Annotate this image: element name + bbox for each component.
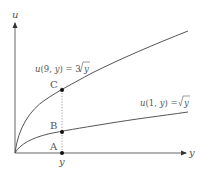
point-b-label: B	[50, 120, 57, 131]
svg-text:y: y	[183, 98, 189, 108]
svg-text:y: y	[83, 64, 89, 74]
point-a-label: A	[49, 141, 58, 152]
curve-u1	[15, 112, 188, 153]
point-b	[60, 130, 64, 134]
svg-text:u(9, y) = 3: u(9, y) = 3	[35, 64, 81, 74]
utility-curves-diagram: u y A B C y u(9, y) = 3 y u(1, y) = y	[0, 0, 204, 177]
y-axis-label: y	[188, 147, 195, 158]
guide-y-label: y	[58, 156, 65, 167]
point-c-label: C	[50, 79, 58, 90]
point-a	[60, 151, 64, 155]
curve-u1-label: u(1, y) = y	[140, 96, 190, 108]
point-c	[60, 88, 64, 92]
curve-u9-label: u(9, y) = 3 y	[35, 62, 90, 74]
curve-u9	[15, 31, 188, 153]
svg-text:u(1, y) =: u(1, y) =	[140, 98, 178, 108]
u-axis-label: u	[12, 9, 18, 20]
